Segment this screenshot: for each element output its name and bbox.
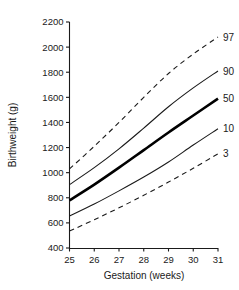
x-tick-label: 27 — [114, 254, 125, 265]
y-tick-label: 1400 — [42, 117, 63, 128]
x-tick-label: 29 — [163, 254, 174, 265]
x-axis-title: Gestation (weeks) — [104, 270, 185, 281]
y-tick-labels: 4006008001000120014001600180020002200 — [42, 16, 63, 253]
percentile-curve-3 — [70, 154, 219, 231]
x-tick-labels: 25262728293031 — [64, 254, 223, 265]
y-tick-label: 1600 — [42, 92, 63, 103]
y-tick-label: 1800 — [42, 67, 63, 78]
y-tick-label: 400 — [48, 242, 64, 253]
x-tick-label: 31 — [213, 254, 224, 265]
x-tick-label: 25 — [64, 254, 75, 265]
percentile-curves — [70, 37, 219, 231]
axes-group — [70, 22, 219, 249]
x-tick-label: 30 — [188, 254, 199, 265]
x-tick-label: 26 — [89, 254, 100, 265]
percentile-label-97: 97 — [223, 32, 235, 43]
y-tick-label: 2200 — [42, 16, 63, 27]
y-tick-label: 1200 — [42, 142, 63, 153]
y-tick-label: 1000 — [42, 167, 63, 178]
y-axis-title: Birthweight (g) — [7, 103, 18, 167]
percentile-label-3: 3 — [223, 148, 229, 159]
y-tick-label: 2000 — [42, 42, 63, 53]
x-tick-label: 28 — [138, 254, 149, 265]
chart-svg: 4006008001000120014001600180020002200 25… — [0, 0, 239, 290]
percentile-curve-90 — [70, 71, 219, 185]
percentile-curve-10 — [70, 129, 219, 216]
percentile-label-90: 90 — [223, 66, 235, 77]
birthweight-percentile-chart: 4006008001000120014001600180020002200 25… — [0, 0, 239, 290]
percentile-label-10: 10 — [223, 123, 235, 134]
percentile-curve-labels: 979050103 — [223, 32, 235, 160]
percentile-label-50: 50 — [223, 93, 235, 104]
y-tick-label: 800 — [48, 192, 64, 203]
percentile-curve-50 — [70, 99, 219, 201]
y-tick-label: 600 — [48, 217, 64, 228]
